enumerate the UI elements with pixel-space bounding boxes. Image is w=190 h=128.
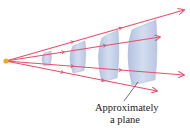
point-source-icon bbox=[3, 58, 8, 63]
annotation-label-line1: Approximately bbox=[95, 102, 155, 114]
ray-lower bbox=[6, 61, 184, 75]
wavefront-2 bbox=[70, 41, 86, 73]
ray-top bbox=[6, 10, 184, 61]
annotation-label-line2: a plane bbox=[95, 114, 155, 126]
wavefront-4 bbox=[128, 20, 157, 85]
wavefront-3 bbox=[99, 30, 119, 82]
rays-group bbox=[6, 10, 184, 91]
